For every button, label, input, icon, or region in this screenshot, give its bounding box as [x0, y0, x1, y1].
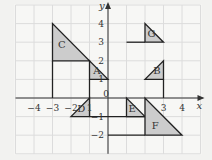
triangle-label-e: E: [128, 103, 135, 114]
x-tick-label: −3: [46, 103, 60, 113]
y-tick-label: 1: [98, 74, 104, 84]
y-tick-label: 3: [98, 37, 104, 47]
y-tick-label: −2: [91, 130, 104, 140]
y-tick-label: 4: [98, 19, 104, 29]
x-tick-label: 4: [179, 103, 185, 113]
x-tick-label: −2: [64, 103, 77, 113]
y-axis-label: y: [98, 0, 105, 11]
y-tick-label: 2: [98, 56, 104, 66]
x-axis-label: x: [197, 100, 203, 111]
triangle-label-f: F: [152, 120, 159, 131]
y-tick-label: −1: [91, 112, 104, 122]
x-tick-label: 0: [103, 89, 109, 99]
triangle-label-b: B: [153, 65, 160, 76]
triangle-label-d: D: [77, 103, 85, 114]
triangle-label-c: C: [58, 39, 66, 50]
x-tick-label: 3: [161, 103, 167, 113]
triangle-label-g: G: [147, 28, 155, 39]
coordinate-grid: xy ABCDEFG −4−3−210344321−1−2: [0, 0, 212, 160]
x-tick-label: −4: [27, 103, 41, 113]
